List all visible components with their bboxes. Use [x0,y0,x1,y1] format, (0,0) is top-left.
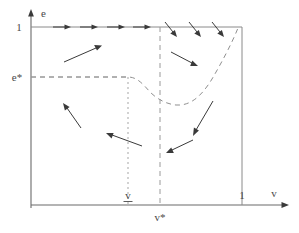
nullcline-curve-group [31,28,238,105]
phase-plot-canvas: e 1 e* v v* 1 v [0,0,299,233]
flow-arrow-top-4 [133,24,151,29]
y-axis-arrowhead [28,9,34,17]
flow-arrow-lower-mid-left [106,133,142,146]
flow-arrow-top-3 [107,24,125,29]
label-group: e 1 e* v v* 1 v [12,7,277,223]
y-axis-label: e [41,7,46,19]
flow-arrow-upper-left [64,45,102,62]
x-tick-label-v-star: v* [155,211,166,223]
x-axis-label: v [271,187,277,199]
flow-arrow-top-right-2 [189,22,201,37]
flow-arrow-top-right-3 [212,22,224,37]
phase-portrait-figure: e 1 e* v v* 1 v [0,0,299,233]
x-axis-arrowhead [282,202,290,208]
flow-arrow-top-1 [53,24,71,29]
flow-arrow-top-right-1 [165,22,177,37]
x-tick-label-one: 1 [239,189,245,201]
frame-group [31,27,242,205]
flow-arrow-upper-right [171,52,198,66]
x-tick-label-v-underbar: v [125,189,131,201]
y-tick-label-one: 1 [16,21,22,33]
guide-lines-group [31,27,160,205]
vector-field-group [53,22,224,153]
y-tick-label-e-star: e* [12,71,22,83]
flow-arrow-lower-right-shallow [166,140,193,153]
flow-arrow-lower-right-steep [193,101,213,136]
flow-arrow-lower-left-up [63,103,81,128]
nullcline-dashed-curve [31,28,238,105]
flow-arrow-top-2 [80,24,98,29]
